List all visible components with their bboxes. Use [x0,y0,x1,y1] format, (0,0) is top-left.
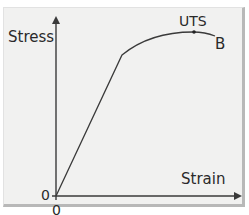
uts-point-marker [192,30,196,34]
origin-y-label: 0 [41,187,50,203]
origin-x-label: 0 [52,202,61,215]
break-point-label: B [215,35,225,53]
y-axis-label: Stress [8,28,54,46]
stress-strain-diagram: Stress Strain UTS B 0 0 [0,0,249,215]
uts-label: UTS [179,13,207,29]
x-axis-label: Strain [181,170,225,188]
